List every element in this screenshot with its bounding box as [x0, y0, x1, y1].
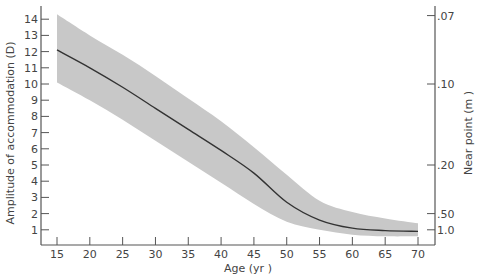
x-tick-label: 55	[313, 248, 327, 261]
x-tick-label: 50	[280, 248, 294, 261]
right-tick-label: .20	[437, 159, 455, 172]
accommodation-chart: 1234567891011121314152025303540455055606…	[0, 0, 480, 280]
y-tick-label: 2	[31, 208, 38, 221]
chart-svg: 1234567891011121314152025303540455055606…	[0, 0, 480, 280]
y-tick-label: 1	[31, 224, 38, 237]
y-tick-label: 14	[24, 13, 38, 26]
x-tick-label: 30	[148, 248, 162, 261]
y-tick-label: 3	[31, 191, 38, 204]
x-axis-label: Age (yr )	[224, 262, 272, 275]
y-tick-label: 6	[31, 143, 38, 156]
x-tick-label: 40	[214, 248, 228, 261]
x-tick-label: 20	[83, 248, 97, 261]
y-tick-label: 12	[24, 46, 38, 59]
x-tick-label: 70	[411, 248, 425, 261]
x-tick-label: 15	[50, 248, 64, 261]
y-tick-label: 11	[24, 62, 38, 75]
y-tick-label: 9	[31, 94, 38, 107]
y-tick-label: 5	[31, 159, 38, 172]
x-tick-label: 65	[378, 248, 392, 261]
y-tick-label: 8	[31, 110, 38, 123]
right-tick-label: .07	[437, 10, 455, 23]
range-band	[57, 14, 418, 236]
right-axis-label: Near point (m )	[462, 91, 475, 175]
y-tick-label: 7	[31, 127, 38, 140]
x-tick-label: 60	[345, 248, 359, 261]
right-tick-label: .10	[437, 78, 455, 91]
y-axis-label: Amplitude of accommodation (D)	[4, 41, 17, 224]
x-tick-label: 45	[247, 248, 261, 261]
range-band-area	[57, 14, 418, 236]
right-tick-label: 1.0	[437, 224, 455, 237]
x-tick-label: 25	[116, 248, 130, 261]
y-tick-label: 10	[24, 78, 38, 91]
x-tick-label: 35	[181, 248, 195, 261]
y-tick-label: 13	[24, 29, 38, 42]
y-tick-label: 4	[31, 175, 38, 188]
right-tick-label: .50	[437, 208, 455, 221]
